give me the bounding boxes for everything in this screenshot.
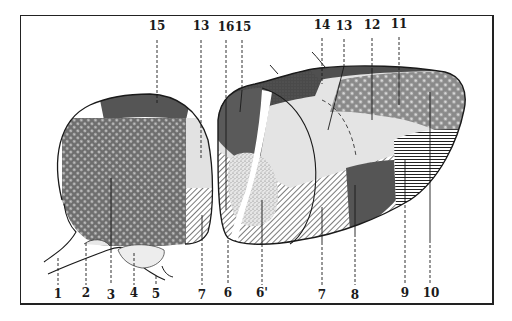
label-1: 1 [54, 288, 62, 300]
label-5: 5 [152, 288, 160, 300]
label-7-right: 7 [318, 289, 326, 301]
label-3: 3 [107, 289, 115, 301]
label-14: 14 [314, 19, 331, 31]
diagram-drawing [0, 0, 512, 321]
anatomical-diagram: 15 13 16 15 14 13 12 11 1 2 3 4 5 7 6 6'… [0, 0, 512, 321]
label-9: 9 [401, 287, 409, 299]
label-4: 4 [130, 287, 138, 299]
label-15-right: 15 [235, 21, 252, 33]
label-15-left: 15 [149, 20, 166, 32]
label-16: 16 [218, 21, 235, 33]
label-10: 10 [423, 287, 440, 299]
label-6-prime: 6' [256, 287, 268, 299]
label-7-left: 7 [198, 289, 206, 301]
label-8: 8 [351, 289, 359, 301]
label-11: 11 [391, 18, 408, 30]
label-2: 2 [82, 287, 90, 299]
label-6: 6 [224, 287, 232, 299]
label-12: 12 [364, 19, 381, 31]
label-13-right: 13 [336, 20, 353, 32]
label-13-left: 13 [193, 20, 210, 32]
